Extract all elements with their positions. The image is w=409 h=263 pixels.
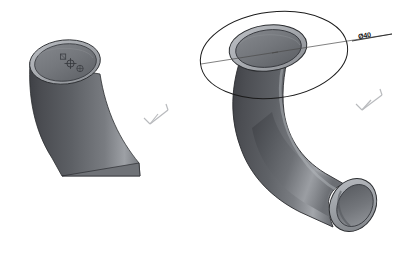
- origin-triad-right: [356, 89, 382, 110]
- left-pipe-model[interactable]: [27, 36, 140, 176]
- right-pipe-model[interactable]: [226, 20, 385, 239]
- cad-viewport[interactable]: [0, 0, 409, 263]
- origin-triad-left: [144, 104, 168, 124]
